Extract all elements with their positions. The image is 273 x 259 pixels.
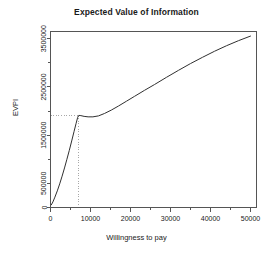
x-tick-label: 10000 xyxy=(81,215,101,222)
y-tick-label: 500000 xyxy=(41,172,48,195)
evpi-curve xyxy=(51,36,250,205)
plot-area: 0100002000030000400005000005000001500000… xyxy=(0,0,273,259)
x-tick-label: 30000 xyxy=(161,215,181,222)
y-tick-label: 2500000 xyxy=(41,73,48,100)
plot-frame-group xyxy=(51,32,257,208)
x-tick-label: 50000 xyxy=(241,215,261,222)
data-curve-group xyxy=(51,36,250,205)
y-tick-label: 3500000 xyxy=(41,25,48,52)
y-tick-label: 1500000 xyxy=(41,121,48,148)
axis-tick-labels-group: 0100002000030000400005000005000001500000… xyxy=(41,25,261,222)
chart-container: Expected Value of Information EVPI Willi… xyxy=(0,0,273,259)
x-tick-label: 0 xyxy=(49,215,53,222)
x-tick-label: 20000 xyxy=(121,215,141,222)
axis-ticks-group xyxy=(47,39,251,212)
y-tick-label: 0 xyxy=(41,205,48,209)
x-tick-label: 40000 xyxy=(201,215,221,222)
